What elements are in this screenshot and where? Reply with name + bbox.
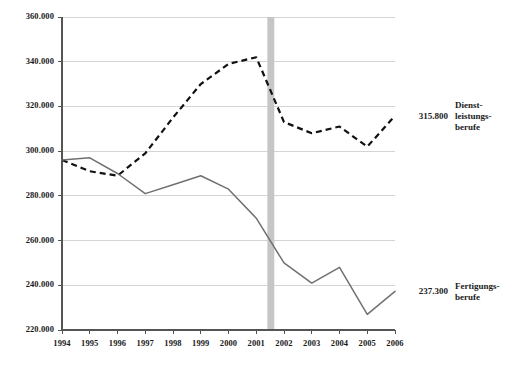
gridlines <box>62 17 395 330</box>
series-name-label-dienstleistungsberufe: Dienst-leistungs-berufe <box>455 100 492 132</box>
x-tick-label: 2004 <box>331 338 349 348</box>
series-line-fertigungsberufe <box>62 158 395 315</box>
series-end-labels: 315.800Dienst-leistungs-berufe237.300Fer… <box>419 100 500 302</box>
y-tick-label: 280.000 <box>26 190 54 200</box>
y-tick-label: 320.000 <box>26 100 54 110</box>
y-axis <box>58 17 62 330</box>
series-value-label-dienstleistungsberufe: 315.800 <box>419 111 449 121</box>
recession-band <box>267 17 274 330</box>
x-tick-label: 1995 <box>81 338 98 348</box>
recession-band-group <box>267 17 274 330</box>
line-chart: 220.000240.000260.000280.000300.000320.0… <box>0 0 519 369</box>
y-tick-labels: 220.000240.000260.000280.000300.000320.0… <box>26 11 54 334</box>
data-series <box>62 57 395 314</box>
y-tick-label: 300.000 <box>26 145 54 155</box>
x-tick-label: 2005 <box>359 338 376 348</box>
x-tick-label: 1998 <box>164 338 181 348</box>
x-tick-label: 2006 <box>386 338 403 348</box>
series-name-label-fertigungsberufe: Fertigungs-berufe <box>455 281 500 302</box>
series-value-label-fertigungsberufe: 237.300 <box>419 286 449 296</box>
x-tick-label: 1994 <box>53 338 71 348</box>
x-tick-label: 1996 <box>109 338 126 348</box>
series-line-dienstleistungsberufe <box>62 57 395 175</box>
x-tick-label: 2003 <box>303 338 320 348</box>
y-tick-label: 340.000 <box>26 56 54 66</box>
x-tick-label: 2001 <box>248 338 265 348</box>
x-tick-label: 1997 <box>137 338 155 348</box>
x-axis <box>62 330 395 334</box>
y-tick-label: 260.000 <box>26 235 54 245</box>
chart-container: 220.000240.000260.000280.000300.000320.0… <box>0 0 519 369</box>
x-tick-labels: 1994199519961997199819992000200120022003… <box>53 338 403 348</box>
y-tick-label: 220.000 <box>26 324 54 334</box>
y-tick-label: 360.000 <box>26 11 54 21</box>
y-tick-label: 240.000 <box>26 279 54 289</box>
x-tick-label: 2000 <box>220 338 237 348</box>
x-tick-label: 2002 <box>275 338 292 348</box>
x-tick-label: 1999 <box>192 338 209 348</box>
